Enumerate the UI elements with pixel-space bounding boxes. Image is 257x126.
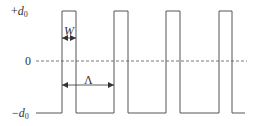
minus-sign: −: [12, 106, 19, 120]
width-label-w: W: [64, 25, 74, 37]
period-label-lambda: Λ: [84, 74, 93, 86]
y-label-plus-d0: +d0: [11, 5, 28, 21]
y-label-minus-d0: −d0: [12, 107, 29, 123]
plus-sign: +: [11, 4, 18, 18]
subscript-zero: 0: [25, 112, 29, 121]
subscript-zero: 0: [24, 10, 28, 19]
y-label-zero: 0: [25, 55, 31, 67]
pulse-train-diagram: [0, 0, 257, 126]
